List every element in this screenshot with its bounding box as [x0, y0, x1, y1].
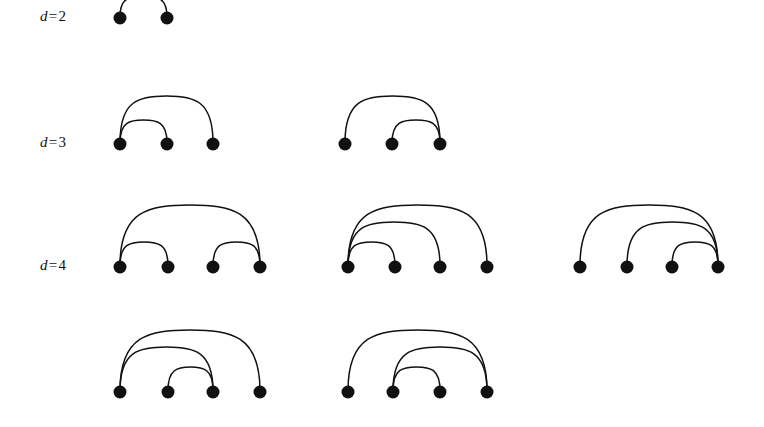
arc-diagram-d4-diagram-3	[574, 205, 725, 274]
arc-diagram-d3-diagram-1	[114, 96, 220, 151]
arc-d4-diagram-2-2	[348, 205, 487, 266]
arc-diagram-canvas	[0, 0, 764, 427]
arc-d4-diagram-4-0	[168, 367, 213, 391]
row-label-relation: =	[48, 257, 59, 273]
arc-d4-diagram-4-1	[120, 347, 213, 391]
node-d4-diagram-3-2	[666, 261, 679, 274]
node-d4-diagram-5-0	[342, 386, 355, 399]
arc-d4-diagram-3-2	[580, 205, 718, 266]
row-label-value: 3	[58, 134, 66, 150]
node-d4-diagram-2-2	[434, 261, 447, 274]
arc-d4-diagram-1-0	[120, 242, 168, 266]
node-d4-diagram-2-3	[481, 261, 494, 274]
node-d4-diagram-1-0	[114, 261, 127, 274]
node-d4-diagram-2-1	[389, 261, 402, 274]
arc-d4-diagram-5-0	[393, 367, 440, 391]
node-d4-diagram-1-1	[162, 261, 175, 274]
row-label-row-d3: d=3	[40, 134, 66, 151]
node-d4-diagram-3-1	[621, 261, 634, 274]
arc-d4-diagram-1-2	[120, 205, 260, 266]
row-label-variable: d	[40, 257, 48, 273]
node-d4-diagram-5-3	[481, 386, 494, 399]
node-d4-diagram-4-2	[207, 386, 220, 399]
row-label-relation: =	[48, 134, 59, 150]
row-label-relation: =	[48, 8, 59, 24]
node-d2-diagram-1-0	[114, 12, 127, 25]
arc-diagram-figure: d=2d=3d=4	[0, 0, 764, 427]
row-label-variable: d	[40, 8, 48, 24]
arc-d2-diagram-1-0	[120, 0, 167, 17]
node-d4-diagram-1-2	[207, 261, 220, 274]
arc-d3-diagram-2-0	[392, 120, 440, 143]
arc-diagram-d4-diagram-2	[342, 205, 494, 274]
node-d3-diagram-1-0	[114, 138, 127, 151]
row-label-row-d4: d=4	[40, 257, 66, 274]
arc-diagram-d2-diagram-1	[114, 0, 174, 25]
arc-diagram-d4-diagram-4	[114, 330, 267, 399]
node-d3-diagram-2-1	[386, 138, 399, 151]
node-d3-diagram-1-2	[207, 138, 220, 151]
node-d3-diagram-2-0	[339, 138, 352, 151]
node-d3-diagram-1-1	[161, 138, 174, 151]
node-d4-diagram-5-2	[434, 386, 447, 399]
arc-d4-diagram-3-0	[672, 242, 718, 266]
row-label-value: 2	[58, 8, 66, 24]
arc-d4-diagram-5-2	[348, 330, 487, 391]
row-label-variable: d	[40, 134, 48, 150]
node-d3-diagram-2-2	[434, 138, 447, 151]
arc-d3-diagram-1-0	[120, 120, 167, 143]
node-d2-diagram-1-1	[161, 12, 174, 25]
node-d4-diagram-3-3	[712, 261, 725, 274]
arc-d4-diagram-2-0	[348, 242, 395, 266]
arc-d4-diagram-1-1	[213, 242, 260, 266]
node-d4-diagram-4-1	[162, 386, 175, 399]
node-d4-diagram-4-0	[114, 386, 127, 399]
arc-diagram-d4-diagram-5	[342, 330, 494, 399]
arc-diagram-d3-diagram-2	[339, 96, 447, 151]
arc-d4-diagram-4-2	[120, 330, 260, 391]
node-d4-diagram-3-0	[574, 261, 587, 274]
row-label-row-d2: d=2	[40, 8, 66, 25]
node-d4-diagram-1-3	[254, 261, 267, 274]
row-label-value: 4	[58, 257, 66, 273]
node-d4-diagram-5-1	[387, 386, 400, 399]
node-d4-diagram-4-3	[254, 386, 267, 399]
arc-diagram-d4-diagram-1	[114, 205, 267, 274]
node-d4-diagram-2-0	[342, 261, 355, 274]
